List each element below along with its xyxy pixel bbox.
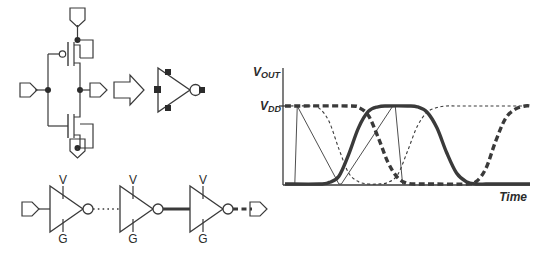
stage-1-ground-label: G [58,232,67,246]
stage-2-bubble-icon [153,204,163,214]
inverter-triangle [158,68,190,112]
output-waveform-plot: VOUT VDD Time [253,65,530,204]
nmos-transistor[interactable] [48,100,80,148]
plot-y-axis-label-sub: OUT [261,70,282,80]
inverter-chain: V G V G V G [22,173,267,246]
series-stage-0-input-ramp [295,106,405,184]
stage-1-triangle [50,186,83,232]
transform-arrow-icon [114,75,144,105]
output-port[interactable] [90,83,107,97]
symbol-input-pin[interactable] [154,86,161,93]
symbol-supply-pin[interactable] [165,69,171,75]
pmos-drain-lead [74,63,80,80]
stage-3-supply-label: V [199,173,207,187]
input-port[interactable] [20,83,37,97]
symbol-output-pin[interactable] [199,87,205,93]
series-stage-3-output [285,106,530,184]
inverter-symbol[interactable] [154,68,205,112]
plot-y-axis-label: VOUT [253,65,282,80]
plot-vdd-label-sub: DD [268,104,281,114]
plot-series-group [285,106,530,184]
pmos-source-lead [74,45,80,58]
figure-canvas: V G V G V G [0,0,537,264]
cmos-inverter-schematic [20,8,107,158]
stage-2-supply-label: V [129,173,137,187]
stage-3-triangle [190,186,223,232]
symbol-ground-pin[interactable] [165,105,171,111]
chain-output-port[interactable] [250,202,267,216]
stage-1-supply-label: V [59,173,67,187]
plot-vdd-label: VDD [260,99,282,114]
stage-3-bubble-icon [223,204,233,214]
stage-3-ground-label: G [198,232,207,246]
chain-stage-2[interactable]: V G [120,173,163,246]
supply-port[interactable] [70,8,85,27]
chain-stage-1[interactable]: V G [50,173,93,246]
plot-x-axis-label: Time [499,190,527,204]
pmos-gate-bubble-icon [59,51,65,57]
chain-input-port[interactable] [22,202,39,216]
wire-nmos-bulk-tie [80,124,93,148]
stage-1-bubble-icon [83,204,93,214]
nmos-drain-lead [74,100,80,117]
stage-2-ground-label: G [128,232,137,246]
pmos-transistor[interactable] [48,42,80,80]
junction-dot-input [45,87,51,93]
chain-stage-3[interactable]: V G [190,173,233,246]
stage-2-triangle [120,186,153,232]
figure-root: V G V G V G [0,0,537,264]
